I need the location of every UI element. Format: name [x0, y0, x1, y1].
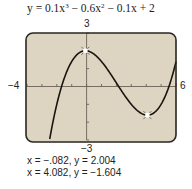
screen-background [26, 33, 176, 142]
result-maximum: x = −.082, y = 2.004 [27, 155, 116, 166]
result-minimum: x = 4.082, y = −1.604 [27, 167, 121, 178]
